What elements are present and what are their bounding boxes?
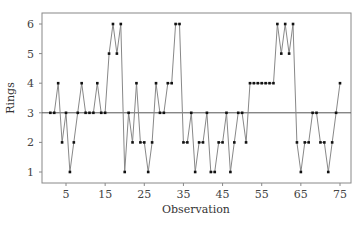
data-point: [112, 23, 115, 26]
plot-frame: [42, 13, 351, 183]
data-point: [327, 171, 330, 174]
data-point: [241, 112, 244, 115]
data-point: [69, 171, 72, 174]
data-point: [182, 141, 185, 144]
data-point: [61, 141, 64, 144]
data-point: [284, 23, 287, 26]
data-point: [296, 141, 299, 144]
data-point: [335, 112, 338, 115]
data-point: [80, 82, 83, 85]
data-point: [268, 82, 271, 85]
y-tick-label: 5: [27, 48, 34, 61]
data-point: [300, 171, 303, 174]
data-point: [311, 112, 314, 115]
y-tick-label: 3: [27, 107, 34, 120]
data-point: [108, 52, 111, 55]
y-tick-label: 6: [27, 18, 34, 31]
data-point: [206, 112, 209, 115]
data-point: [319, 141, 322, 144]
y-axis: 123456: [27, 18, 42, 179]
data-point: [331, 141, 334, 144]
data-point: [288, 52, 291, 55]
data-point: [96, 82, 99, 85]
data-point: [174, 23, 177, 26]
data-point: [217, 141, 220, 144]
chart: 123456 515253545556575 Observation Rings: [0, 0, 363, 232]
data-line: [50, 24, 340, 172]
data-point: [276, 23, 279, 26]
data-point: [123, 171, 126, 174]
data-point: [166, 82, 169, 85]
data-point: [49, 112, 52, 115]
data-point: [339, 82, 342, 85]
data-point: [100, 112, 103, 115]
data-point: [221, 141, 224, 144]
data-point: [323, 141, 326, 144]
data-point: [253, 82, 256, 85]
data-point: [198, 141, 201, 144]
data-point: [139, 141, 142, 144]
data-point: [76, 112, 79, 115]
data-point: [131, 141, 134, 144]
data-point: [229, 171, 232, 174]
data-point: [104, 112, 107, 115]
data-point: [116, 52, 119, 55]
data-point: [65, 112, 68, 115]
data-point: [315, 112, 318, 115]
data-markers: [49, 23, 341, 174]
x-tick-label: 5: [63, 188, 70, 201]
data-point: [202, 141, 205, 144]
data-point: [170, 82, 173, 85]
data-point: [303, 141, 306, 144]
data-point: [84, 112, 87, 115]
x-axis: 515253545556575: [63, 183, 348, 201]
data-point: [257, 82, 260, 85]
data-point: [147, 171, 150, 174]
x-tick-label: 75: [333, 188, 347, 201]
data-point: [186, 141, 189, 144]
data-point: [57, 82, 60, 85]
data-point: [178, 23, 181, 26]
data-point: [53, 112, 56, 115]
data-point: [272, 82, 275, 85]
data-point: [190, 112, 193, 115]
data-point: [210, 171, 213, 174]
data-point: [163, 112, 166, 115]
y-axis-title: Rings: [4, 82, 17, 114]
x-tick-label: 35: [176, 188, 190, 201]
data-point: [249, 82, 252, 85]
data-point: [233, 141, 236, 144]
data-point: [143, 141, 146, 144]
y-tick-label: 1: [27, 166, 34, 179]
data-point: [88, 112, 91, 115]
x-tick-label: 15: [98, 188, 112, 201]
data-point: [307, 141, 310, 144]
x-tick-label: 55: [255, 188, 269, 201]
data-point: [155, 82, 158, 85]
data-point: [127, 112, 130, 115]
x-tick-label: 25: [137, 188, 151, 201]
data-point: [237, 112, 240, 115]
data-point: [264, 82, 267, 85]
data-point: [213, 171, 216, 174]
data-point: [92, 112, 95, 115]
data-point: [159, 112, 162, 115]
x-tick-label: 65: [294, 188, 308, 201]
x-axis-title: Observation: [162, 203, 230, 216]
data-point: [194, 171, 197, 174]
data-point: [135, 82, 138, 85]
data-point: [225, 112, 228, 115]
data-point: [245, 141, 248, 144]
data-point: [292, 23, 295, 26]
data-point: [280, 52, 283, 55]
data-point: [120, 23, 123, 26]
data-point: [260, 82, 263, 85]
x-tick-label: 45: [216, 188, 230, 201]
data-point: [73, 141, 76, 144]
data-point: [151, 141, 154, 144]
y-tick-label: 4: [27, 77, 34, 90]
y-tick-label: 2: [27, 136, 34, 149]
